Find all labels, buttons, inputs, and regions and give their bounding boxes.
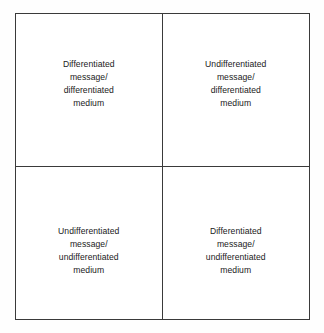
matrix-figure: Differentiated message/ differentiated m…	[0, 0, 324, 333]
quadrant-bottom-left-label: Undifferentiated message/ undifferentiat…	[52, 225, 125, 277]
quadrant-bottom-right: Differentiated message/ undifferentiated…	[163, 167, 310, 320]
quadrant-top-left: Differentiated message/ differentiated m…	[16, 14, 163, 167]
quadrant-bottom-right-label: Differentiated message/ undifferentiated…	[200, 225, 272, 277]
quadrant-top-left-label: Differentiated message/ differentiated m…	[57, 58, 121, 110]
quadrant-top-right-label: Undifferentiated message/ differentiated…	[199, 58, 272, 110]
quadrant-bottom-left: Undifferentiated message/ undifferentiat…	[16, 167, 163, 320]
matrix-grid: Differentiated message/ differentiated m…	[15, 13, 310, 320]
quadrant-top-right: Undifferentiated message/ differentiated…	[163, 14, 310, 167]
